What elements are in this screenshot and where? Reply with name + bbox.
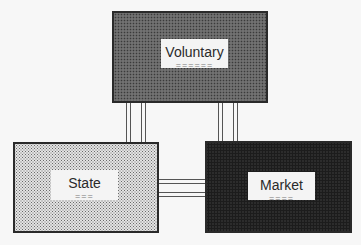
connector-state-market-a	[156, 179, 207, 184]
connector-voluntary-market-a	[218, 100, 223, 143]
node-market-underline: ====	[248, 194, 315, 202]
node-voluntary-title: Voluntary	[161, 44, 228, 60]
node-voluntary-underline: ======	[161, 61, 228, 69]
connector-voluntary-state-b	[141, 100, 146, 144]
node-state-label: State ===	[51, 170, 118, 200]
connector-voluntary-market-b	[233, 100, 238, 143]
connector-state-market-b	[156, 192, 207, 197]
connector-voluntary-state-a	[126, 100, 131, 144]
node-market-label: Market ====	[248, 172, 315, 200]
node-state-title: State	[51, 175, 118, 191]
node-market-title: Market	[248, 177, 315, 193]
node-voluntary-label: Voluntary ======	[161, 39, 228, 68]
node-state-underline: ===	[51, 192, 118, 200]
